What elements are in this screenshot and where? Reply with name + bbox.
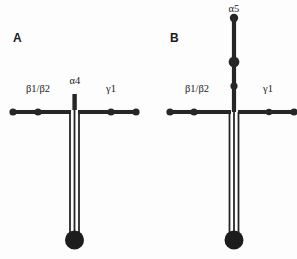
panel-b-alpha-lower-node [230, 82, 237, 89]
panel-b-globular-domain [225, 231, 244, 250]
panel-a-alpha-stub [72, 94, 76, 110]
panel-a-globular-domain [65, 231, 84, 250]
panel-b-gamma-terminal-node [290, 108, 297, 115]
panel-a-beta-label: β1/β2 [26, 83, 50, 94]
panel-b-letter: B [170, 31, 179, 45]
laminin-structure-diagram: A β1/β2 α4 γ1 B [0, 0, 297, 259]
panel-a-beta-inner-node [34, 108, 41, 115]
panel-b-gamma-label: γ1 [262, 83, 273, 94]
panel-b-alpha-tip-node [230, 14, 238, 22]
panel-b: B α5 β1/β2 γ1 [166, 3, 297, 250]
panel-b-beta-label: β1/β2 [185, 83, 209, 94]
panel-a-letter: A [13, 31, 22, 45]
panel-a-alpha-label: α4 [70, 75, 82, 86]
panel-a-gamma-terminal-node [132, 108, 139, 115]
panel-b-beta-terminal-node [166, 108, 173, 115]
panel-b-beta-inner-node [190, 108, 197, 115]
panel-a-gamma-label: γ1 [105, 83, 116, 94]
panel-a: A β1/β2 α4 γ1 [9, 31, 139, 250]
panel-b-alpha-label: α5 [229, 3, 240, 14]
panel-b-alpha-mid-node [229, 57, 240, 68]
panel-a-gamma-inner-node [107, 108, 114, 115]
panel-b-gamma-inner-node [266, 109, 272, 115]
figure-root: A β1/β2 α4 γ1 B [0, 0, 297, 259]
panel-a-beta-terminal-node [9, 108, 16, 115]
